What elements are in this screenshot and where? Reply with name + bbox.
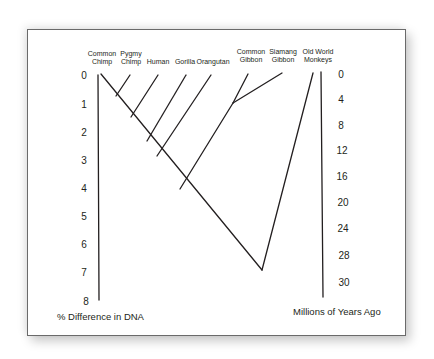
branch-gibbon-stem [180,103,233,189]
figure-stage: Common Chimp Pygmy Chimp Human Gorilla O… [0,0,434,359]
taxon-label-line1: Common [237,48,265,56]
taxon-label-common-chimp: Common Chimp [88,50,116,66]
taxon-label-line2: Chimp [88,58,116,66]
left-axis-tick: 5 [81,211,87,222]
taxon-label-human: Human [147,58,170,66]
left-axis-tick: 3 [81,155,87,166]
taxon-label-line2: Monkeys [303,56,334,64]
left-axis-tick: 1 [81,99,87,110]
right-axis-title: Millions of Years Ago [293,306,381,317]
taxon-label-line2: Orangutan [196,58,229,66]
right-axis-tick: 12 [336,145,347,156]
right-axis-tick: 20 [337,197,348,208]
taxon-label-line2: Gorilla [175,58,195,66]
branch-human [131,75,158,117]
left-axis-tick: 6 [81,239,87,250]
left-axis-tick: 4 [81,183,87,194]
taxon-label-line1: Pygmy [120,50,141,58]
right-axis-tick: 28 [338,250,349,261]
branch-common-chimp-trunk [101,74,262,270]
branch-gorilla [147,75,186,141]
left-axis-tick: 7 [81,267,87,278]
right-axis-tick: 8 [338,120,344,131]
branch-old-world-monkeys [262,73,313,270]
right-axis-tick: 24 [337,223,348,234]
left-axis-tick: 0 [81,70,87,81]
taxon-label-line2: Gibbon [269,56,297,64]
taxon-label-siamang-gibbon: Siamang Gibbon [269,48,297,64]
right-axis-line [321,72,323,297]
taxon-label-old-world-monkeys: Old World Monkeys [303,48,334,64]
taxon-label-line2: Gibbon [237,56,265,64]
taxon-label-gorilla: Gorilla [175,58,195,66]
left-axis-tick: 2 [81,127,87,138]
branch-pygmy-chimp [116,75,130,96]
right-axis-tick: 0 [338,69,344,80]
taxon-label-line1: Old World [303,48,334,56]
taxon-label-line1: Common [88,50,116,58]
left-axis-tick: 8 [83,296,89,307]
right-axis-tick: 4 [338,94,344,105]
taxon-label-common-gibbon: Common Gibbon [237,48,265,64]
taxon-label-line1: Siamang [269,48,297,56]
taxon-label-pygmy-chimp: Pygmy Chimp [120,50,141,66]
right-axis-tick: 30 [338,277,349,288]
taxon-label-line2: Chimp [120,58,141,66]
left-axis-line [98,75,99,300]
left-axis-title: % Difference in DNA [57,311,144,322]
taxon-label-line2: Human [147,58,170,66]
branch-orangutan [157,75,211,156]
right-axis-tick: 16 [336,171,347,182]
taxon-label-orangutan: Orangutan [196,58,229,66]
